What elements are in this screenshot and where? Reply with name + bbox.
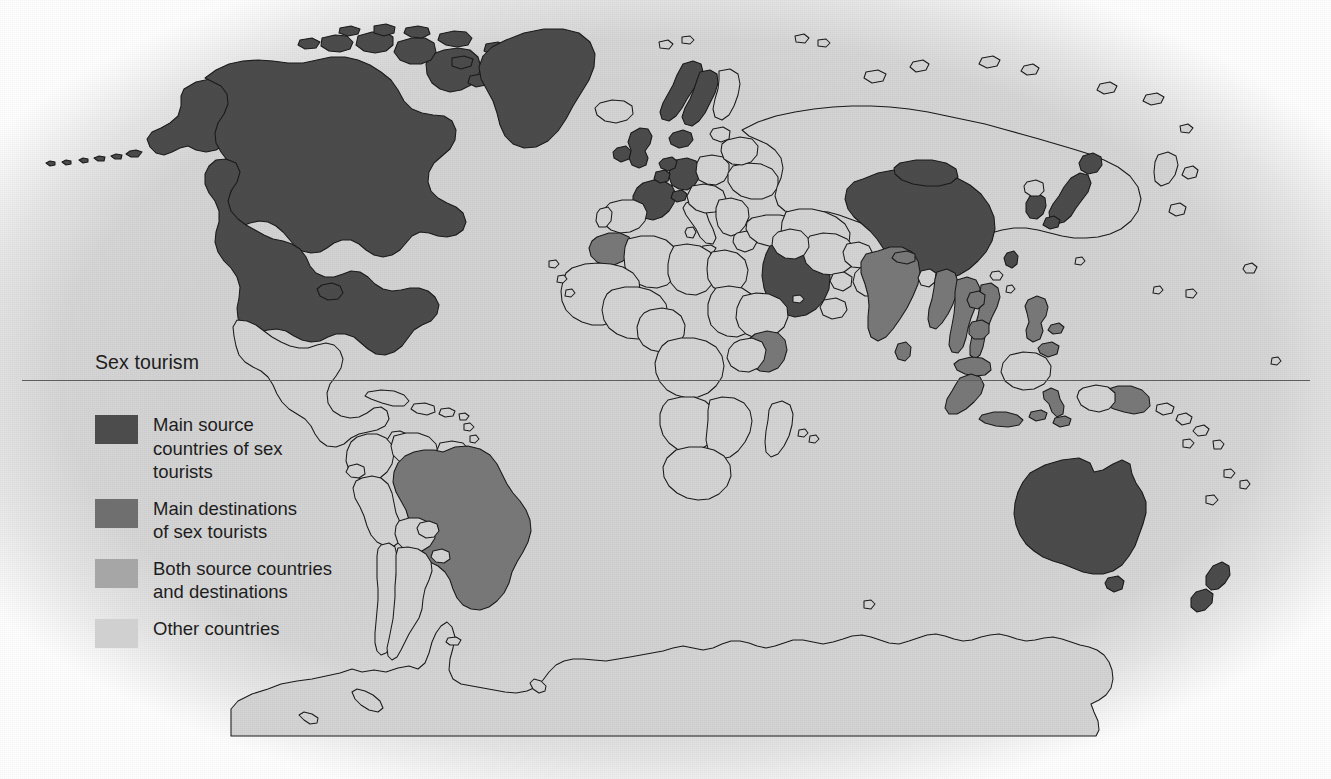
map-legend: Sex tourism Main source countries of sex… xyxy=(95,352,425,664)
country-philippines xyxy=(1025,296,1048,342)
legend-label-both: Both source countries and destinations xyxy=(153,557,332,604)
country-ukraine xyxy=(728,163,778,199)
country-united-kingdom xyxy=(628,128,652,168)
legend-item-other: Other countries xyxy=(95,617,425,648)
legend-label-main-source: Main source countries of sex tourists xyxy=(153,413,283,484)
country-new-zealand xyxy=(1206,562,1230,590)
country-malaysia xyxy=(954,357,991,376)
country-australia xyxy=(1014,458,1146,574)
legend-item-both: Both source countries and destinations xyxy=(95,557,425,604)
country-ethiopia-horn xyxy=(736,293,788,338)
legend-items: Main source countries of sex tourists Ma… xyxy=(95,413,425,648)
legend-label-other: Other countries xyxy=(153,617,279,641)
legend-swatch-both xyxy=(95,559,138,588)
country-hainan xyxy=(990,271,1003,280)
legend-title: Sex tourism xyxy=(95,352,425,372)
region-oceania xyxy=(864,263,1281,612)
falkland-islands xyxy=(446,637,461,645)
aleutian-islands xyxy=(126,150,142,157)
country-switzerland xyxy=(671,190,687,202)
country-greenland xyxy=(479,29,595,148)
country-south-africa xyxy=(663,447,731,500)
papua-western xyxy=(1077,385,1115,412)
country-cambodia xyxy=(969,320,989,339)
country-belgium xyxy=(654,170,670,183)
country-drc-congo xyxy=(655,338,724,398)
legend-swatch-main-source xyxy=(95,415,138,444)
legend-item-main-source: Main source countries of sex tourists xyxy=(95,413,425,484)
country-bangladesh xyxy=(918,269,936,287)
legend-swatch-other xyxy=(95,619,138,648)
map-page: Sex tourism Main source countries of sex… xyxy=(0,0,1331,779)
region-asia xyxy=(845,153,1102,427)
country-taiwan xyxy=(1004,251,1018,268)
country-iceland xyxy=(595,100,633,123)
country-yemen-oman xyxy=(820,298,847,319)
region-europe xyxy=(596,61,805,253)
country-new-zealand-south xyxy=(1191,589,1213,612)
country-ireland xyxy=(613,146,631,162)
country-denmark xyxy=(669,130,693,148)
country-kamchatka xyxy=(1154,152,1178,186)
country-japan-kyushu xyxy=(1043,216,1060,229)
legend-item-main-destinations: Main destinations of sex tourists xyxy=(95,497,425,544)
country-sri-lanka xyxy=(895,342,911,361)
country-sardinia xyxy=(685,227,696,238)
balkans xyxy=(716,198,749,236)
legend-swatch-main-destinations xyxy=(95,499,138,528)
country-north-korea xyxy=(1024,180,1044,196)
country-belarus-baltics xyxy=(721,137,758,165)
country-java xyxy=(979,412,1023,427)
country-tasmania xyxy=(1105,576,1124,592)
legend-label-main-destinations: Main destinations of sex tourists xyxy=(153,497,297,544)
country-borneo xyxy=(1001,352,1051,390)
country-madagascar xyxy=(765,401,793,457)
